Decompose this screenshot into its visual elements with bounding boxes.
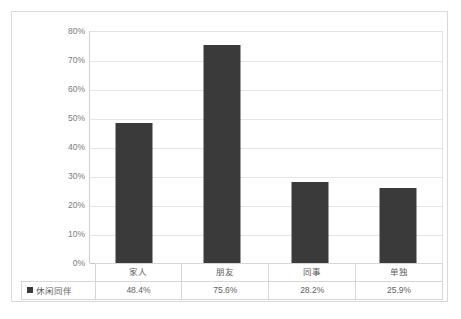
y-axis-tick-label: 80% [25, 27, 85, 36]
plot-area [89, 31, 443, 263]
y-axis-tick-label: 40% [25, 143, 85, 152]
bar-slot [178, 32, 266, 263]
bar-slot [90, 32, 178, 263]
y-axis-tick-label: 50% [25, 114, 85, 123]
table-row-values: 休闲同伴 48.4% 75.6% 28.2% 25.9% [22, 282, 443, 300]
y-axis-tick-label: 70% [25, 56, 85, 65]
y-axis-tick-label: 10% [25, 230, 85, 239]
y-axis-tick-label: 30% [25, 172, 85, 181]
value-cell: 28.2% [269, 282, 356, 300]
square-marker-icon [27, 287, 33, 293]
legend-label: 休闲同伴 [36, 286, 72, 296]
bars-layer [90, 32, 442, 263]
bar[interactable] [292, 182, 329, 263]
legend-cell: 休闲同伴 [22, 282, 96, 300]
category-header-cell: 家人 [95, 264, 182, 282]
category-header-cell: 朋友 [182, 264, 269, 282]
y-axis-tick-label: 60% [25, 85, 85, 94]
category-header-cell: 单独 [356, 264, 443, 282]
bar[interactable] [380, 188, 417, 263]
y-axis-tick-label: 20% [25, 201, 85, 210]
value-cell: 25.9% [356, 282, 443, 300]
bar-slot [266, 32, 354, 263]
table-row-categories: 家人 朋友 同事 单独 [22, 264, 443, 282]
category-header-cell: 同事 [269, 264, 356, 282]
chart-frame: 80% 70% 60% 50% 40% 30% 20% 10% 0% [11, 11, 448, 302]
y-axis-labels: 80% 70% 60% 50% 40% 30% 20% 10% 0% [19, 31, 85, 263]
value-cell: 75.6% [182, 282, 269, 300]
value-cell: 48.4% [95, 282, 182, 300]
bar-slot [354, 32, 442, 263]
table-corner-cell [22, 264, 96, 282]
data-table: 家人 朋友 同事 单独 休闲同伴 48.4% 75.6% 28.2% 25.9% [21, 263, 443, 300]
bar[interactable] [116, 123, 153, 263]
bar[interactable] [204, 45, 241, 263]
